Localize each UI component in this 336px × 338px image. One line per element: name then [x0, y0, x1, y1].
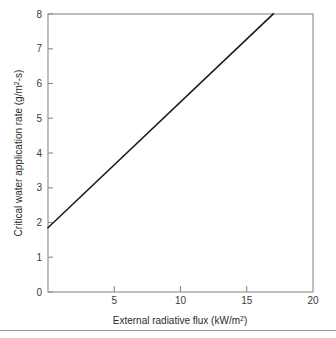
x-tick-label-15: 15 [241, 295, 253, 306]
y-axis-title-tail: -s) [13, 70, 24, 82]
y-tick-label-1: 1 [36, 252, 42, 263]
x-tick-label-10: 10 [175, 295, 187, 306]
y-tick-label-5: 5 [36, 113, 42, 124]
y-axis-title: Critical water application rate (g/m2-s) [13, 70, 25, 237]
y-tick-label-4: 4 [36, 148, 42, 159]
x-axis-title: External radiative flux (kW/m2) [113, 315, 248, 327]
x-tick-label-5: 5 [111, 295, 117, 306]
x-axis-tick-labels: 5 10 15 20 [111, 295, 319, 306]
y-tick-label-0: 0 [36, 287, 42, 298]
y-tick-label-7: 7 [36, 43, 42, 54]
y-tick-label-6: 6 [36, 78, 42, 89]
y-axis-title-base: Critical water application rate (g/m [13, 85, 24, 236]
y-axis-tick-labels: 0 1 2 3 4 5 6 7 8 [36, 9, 42, 298]
y-tick-label-2: 2 [36, 217, 42, 228]
line-chart: 0 1 2 3 4 5 6 7 8 5 10 15 20 External ra… [0, 0, 336, 338]
figure-container: 0 1 2 3 4 5 6 7 8 5 10 15 20 External ra… [0, 0, 336, 338]
y-tick-label-3: 3 [36, 182, 42, 193]
plot-background [48, 14, 313, 292]
y-tick-label-8: 8 [36, 9, 42, 20]
x-axis-title-tail: ) [244, 315, 247, 326]
x-tick-label-20: 20 [307, 295, 319, 306]
x-axis-title-base: External radiative flux (kW/m [113, 315, 240, 326]
